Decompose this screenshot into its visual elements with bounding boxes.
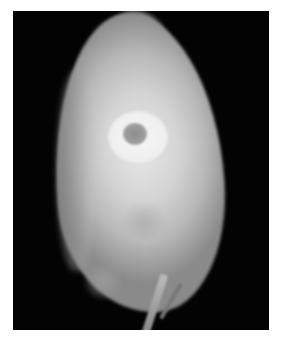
ring-hole (123, 123, 147, 145)
seed-left-fold (57, 71, 93, 271)
bottom-notch (83, 261, 123, 301)
xray-image-frame (13, 11, 269, 330)
inner-lobe (121, 203, 167, 245)
